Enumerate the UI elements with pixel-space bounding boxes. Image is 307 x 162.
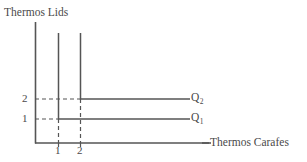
curve-label-q1-base: Q: [191, 111, 199, 123]
y-tick-label-1: 1: [22, 113, 28, 124]
indifference-curve-chart: Thermos Lids Thermos Carafes 2 1 1 2 Q2 …: [0, 0, 307, 162]
curve-label-q1-subscript: 1: [200, 117, 204, 126]
y-axis-title: Thermos Lids: [4, 7, 68, 19]
indifference-curve-q2: [81, 33, 191, 99]
y-tick-label-2: 2: [22, 93, 28, 104]
curve-label-q1: Q1: [191, 112, 203, 124]
x-axis-title: Thermos Carafes: [210, 137, 289, 149]
curve-label-q2-base: Q: [191, 91, 199, 103]
x-tick-label-2: 2: [77, 145, 83, 156]
indifference-curve-q1: [59, 33, 191, 119]
x-tick-label-1: 1: [55, 145, 61, 156]
curve-label-q2: Q2: [191, 92, 203, 104]
curve-label-q2-subscript: 2: [200, 97, 204, 106]
